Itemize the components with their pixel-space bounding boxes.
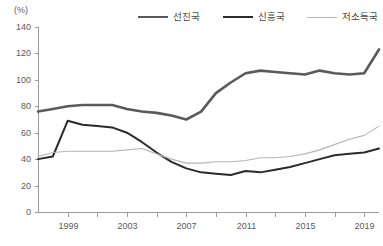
y-tick-label: 60 (21, 128, 31, 138)
y-tick-label: 20 (21, 181, 31, 191)
x-tick-label: 2019 (354, 221, 374, 231)
y-tick-label: 0 (26, 207, 31, 217)
plot-area: 020406080100120140 199920032007201120152… (0, 0, 383, 246)
x-axis: 199920032007201120152019 (39, 213, 380, 231)
x-tick-label: 2011 (237, 221, 256, 231)
x-tick-label: 2007 (176, 221, 196, 231)
y-tick-label: 140 (16, 22, 31, 32)
y-tick-label: 40 (21, 154, 31, 164)
y-tick-label: 80 (21, 101, 31, 111)
y-axis: 020406080100120140 (16, 22, 39, 217)
debt-ratio-line-chart: (%) 선진국 신흥국 저소득국 020406080100120140 1999… (0, 0, 383, 246)
series-lines (38, 49, 379, 175)
series-line-선진국 (38, 49, 379, 119)
x-tick-label: 1999 (58, 221, 78, 231)
y-tick-label: 120 (16, 48, 31, 58)
series-line-신흥국 (38, 121, 379, 175)
x-tick-label: 2015 (295, 221, 315, 231)
x-tick-label: 2003 (117, 221, 137, 231)
y-tick-label: 100 (16, 75, 31, 85)
